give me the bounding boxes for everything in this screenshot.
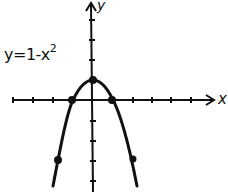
point-left-low [54,156,62,164]
point-x-intercept-left [68,96,76,104]
parabola-curve [53,80,137,186]
point-x-intercept-right [108,96,116,104]
x-axis-label: x [218,90,227,108]
parabola-plot [0,0,228,192]
point-vertex [89,76,97,84]
equation-exponent: 2 [50,42,57,55]
equation-text: y=1-x [4,45,50,64]
equation-label: y=1-x2 [4,44,56,64]
point-right-low [130,156,137,163]
y-axis [86,3,96,192]
y-axis-label: y [97,0,105,13]
